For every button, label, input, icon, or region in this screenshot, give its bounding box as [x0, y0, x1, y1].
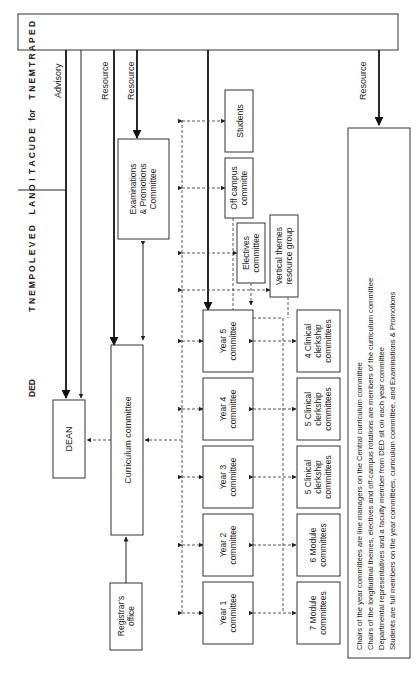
header-letter: L: [27, 209, 37, 214]
sub-committee: 5 Clinicalclerkshipcommittees: [297, 378, 340, 440]
sub-committee: 6 Modulecommittees: [297, 514, 340, 576]
year-committee-label: Year 5: [218, 329, 228, 354]
electives-label: Electives: [241, 236, 251, 270]
sub-committee-label: committees: [318, 523, 328, 566]
sub-committee: 4 Clinicalclerkshipcommittees: [297, 310, 340, 372]
year-committee-label: committee: [228, 389, 238, 428]
year-committee: Year 2committee: [203, 514, 253, 576]
resource-label-2: Resource: [126, 61, 136, 100]
exams-label: & Promotions: [138, 163, 148, 214]
note-line: Students are full members on the year co…: [388, 291, 397, 650]
header-letter: T: [27, 306, 37, 312]
header-letter: M: [27, 69, 37, 76]
exams-promotions-committee: Examinations& PromotionsCommittee: [118, 139, 169, 239]
sub-committee-label: clerkship: [313, 392, 323, 426]
off-campus-label: committe: [239, 170, 249, 205]
year-committee-label: Year 3: [218, 465, 228, 490]
header-letter: M: [27, 281, 37, 288]
resource-label-3: Resource: [358, 61, 368, 100]
sub-committee: 5 Clinicalclerkshipcommittees: [297, 446, 340, 508]
year-committee-label: committee: [228, 593, 238, 632]
sub-committee-label: clerkship: [313, 460, 323, 494]
header-letter: E: [27, 128, 37, 134]
year-committee-label: Year 1: [218, 601, 228, 626]
header-letter: T: [27, 94, 37, 100]
exams-label: Committee: [148, 168, 158, 209]
header-letter: T: [27, 168, 37, 174]
year-committee-label: committee: [228, 321, 238, 360]
curriculum-committee: Curriculum committee: [111, 345, 143, 535]
sub-committee-label: 4 Clinical: [303, 324, 313, 359]
students-box: Students: [225, 90, 253, 152]
note-line: Chairs of the year committees are line m…: [355, 362, 364, 650]
header-letter: V: [27, 241, 37, 247]
header-for: for: [27, 109, 37, 121]
sub-committee-label: 5 Clinical: [303, 460, 313, 495]
year-committee-label: committee: [228, 525, 238, 564]
dean-box: DEAN: [53, 400, 85, 478]
header-letter: D: [27, 225, 37, 231]
org-chart: DEPARTMENTforEDUCATIONALDEVELOPMENTDED A…: [0, 0, 417, 689]
year-committee: Year 3committee: [203, 446, 253, 508]
electives-label: committee: [251, 233, 261, 272]
sub-committee: 7 Modulecommittees: [297, 582, 340, 644]
sub-committee-label: committees: [318, 591, 328, 634]
header-letter: O: [27, 265, 37, 272]
year-committee-label: committee: [228, 457, 238, 496]
sub-committee-label: committees: [323, 455, 333, 498]
header-letter: R: [27, 53, 37, 59]
header-letter: E: [27, 78, 37, 84]
header-letter: P: [27, 37, 37, 43]
advisory-label: Advisory: [53, 63, 63, 98]
exams-label: Examinations: [128, 163, 138, 214]
registrar-office: Registrar'soffice: [110, 583, 142, 650]
header-letter: E: [27, 290, 37, 296]
year-committee: Year 5committee: [203, 310, 253, 372]
header-letter: E: [27, 233, 37, 239]
year-committee: Year 1committee: [203, 582, 253, 644]
header-letter: P: [27, 274, 37, 280]
electives-committee: Electivescommittee: [237, 223, 265, 283]
year-committee-label: Year 4: [218, 397, 228, 422]
resource-label-1: Resource: [100, 61, 110, 100]
header-letter: A: [27, 160, 37, 166]
header-letter: N: [27, 298, 37, 304]
registrar-label: office: [126, 606, 136, 626]
header-letter: I: [27, 178, 37, 180]
vertical-themes-label: Vertical themes: [274, 227, 284, 285]
vertical-themes-label: resource group: [284, 227, 294, 284]
notes-box: Chairs of the year committees are line m…: [348, 128, 410, 658]
sub-committee-label: committees: [323, 319, 333, 362]
header-letter: D: [27, 136, 37, 142]
sub-committee-label: 5 Clinical: [303, 392, 313, 427]
sub-committee-label: clerkship: [313, 324, 323, 358]
svg-text:Students: Students: [235, 104, 245, 138]
registrar-label: Registrar's: [116, 596, 126, 636]
header-letter: T: [27, 61, 37, 67]
header-letter: A: [27, 201, 37, 207]
header-letter: N: [27, 86, 37, 92]
header-letter: A: [27, 45, 37, 51]
sub-committee-label: 7 Module: [308, 595, 318, 630]
off-campus-committee: Off campuscommitte: [225, 158, 253, 218]
svg-text:DEAN: DEAN: [64, 426, 74, 451]
header-letter: E: [27, 29, 37, 35]
header-letter: D: [27, 21, 37, 27]
header-letter: E: [27, 249, 37, 255]
note-line: Departmental representatives and a facul…: [377, 347, 386, 650]
year-committee: Year 4committee: [203, 378, 253, 440]
sub-committee-label: 6 Module: [308, 527, 318, 562]
header-letter: N: [27, 193, 37, 199]
header-letter: C: [27, 152, 37, 158]
sub-committee-label: committees: [323, 387, 333, 430]
year-committee-label: Year 2: [218, 533, 228, 558]
note-line: Chairs of the longitudinal themes, elect…: [366, 278, 375, 650]
svg-text:Curriculum committee: Curriculum committee: [123, 396, 133, 484]
header-abbr: DED: [27, 379, 37, 397]
off-campus-label: Off campus: [229, 166, 239, 209]
header-letter: U: [27, 144, 37, 150]
vertical-themes-group: Vertical themesresource group: [270, 215, 298, 297]
header-letter: L: [27, 258, 37, 263]
